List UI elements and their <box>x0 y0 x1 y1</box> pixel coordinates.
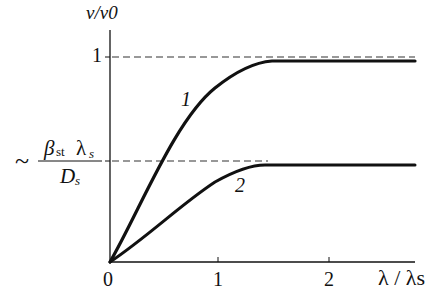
y-tick-label-1: 1 <box>92 44 102 67</box>
curve-1-label: 1 <box>181 88 191 111</box>
tilde-symbol: ~ <box>15 146 29 176</box>
annotation-D: D <box>60 164 75 189</box>
x-axis-label: λ / λs <box>378 265 425 291</box>
x-tick-label-0: 0 <box>103 268 113 291</box>
x-tick-label-2: 2 <box>324 268 334 291</box>
chart-canvas <box>0 0 440 307</box>
curve-1 <box>110 61 415 262</box>
curve-2 <box>110 165 415 262</box>
annotation-lambda-sub: s <box>89 146 94 162</box>
curve-2-label: 2 <box>235 174 245 197</box>
annotation-st: st <box>56 144 65 160</box>
y-axis-label: v/v0 <box>86 2 118 24</box>
annotation-D-sub: s <box>75 173 80 189</box>
annotation-beta: β <box>44 136 54 161</box>
annotation-lambda: λ <box>76 136 86 161</box>
x-axis-label-text: λ / λs <box>378 265 425 290</box>
x-tick-label-1: 1 <box>213 268 223 291</box>
